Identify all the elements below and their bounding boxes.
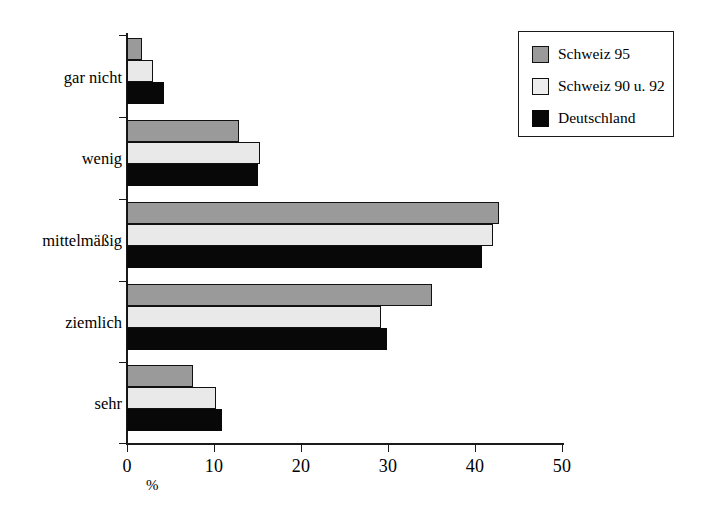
- bar-schweiz-90-92: [127, 142, 260, 164]
- bar-schweiz-95: [127, 284, 432, 306]
- bar-schweiz-95: [127, 365, 193, 387]
- y-axis-tick: [119, 199, 127, 200]
- x-axis-tick: [214, 443, 215, 452]
- bar-schweiz-90-92: [127, 306, 381, 328]
- swatch-schweiz-90-92-icon: [532, 78, 549, 95]
- legend-label: Deutschland: [558, 110, 635, 126]
- bar-schweiz-90-92: [127, 60, 153, 82]
- y-axis-label-mittelmaessig: mittelmäßig: [6, 233, 122, 250]
- bar-deutschland: [127, 328, 387, 350]
- bar-deutschland: [127, 164, 258, 186]
- legend-label: Schweiz 95: [558, 46, 630, 62]
- x-axis-tick-label: 40: [455, 456, 495, 477]
- x-axis-line: [126, 443, 564, 445]
- legend-item-schweiz-90-92: Schweiz 90 u. 92: [532, 76, 665, 96]
- y-axis-tick: [119, 117, 127, 118]
- x-axis-tick-label: 20: [281, 456, 321, 477]
- legend-item-deutschland: Deutschland: [532, 108, 635, 128]
- y-axis-label-ziemlich: ziemlich: [6, 315, 122, 332]
- x-axis-tick: [475, 443, 476, 452]
- y-axis-tick: [119, 281, 127, 282]
- bar-schweiz-90-92: [127, 224, 493, 246]
- y-axis-tick: [119, 362, 127, 363]
- bar-deutschland: [127, 246, 482, 268]
- x-axis-title: %: [146, 477, 159, 494]
- legend: Schweiz 95 Schweiz 90 u. 92 Deutschland: [518, 31, 674, 137]
- swatch-deutschland-icon: [532, 110, 549, 127]
- y-axis-label-gar-nicht: gar nicht: [6, 70, 122, 87]
- x-axis-tick: [127, 443, 128, 452]
- bar-schweiz-90-92: [127, 387, 216, 409]
- x-axis-tick-label: 50: [542, 456, 582, 477]
- x-axis-tick: [388, 443, 389, 452]
- y-axis-label-wenig: wenig: [6, 151, 122, 168]
- x-axis-tick-label: 30: [368, 456, 408, 477]
- bar-schweiz-95: [127, 120, 239, 142]
- bar-deutschland: [127, 409, 222, 431]
- y-axis-tick: [119, 443, 127, 444]
- legend-label: Schweiz 90 u. 92: [558, 78, 665, 94]
- y-axis-labels: gar nicht wenig mittelmäßig ziemlich seh…: [0, 0, 122, 515]
- bar-chart: gar nicht wenig mittelmäßig ziemlich seh…: [0, 0, 708, 515]
- x-axis-tick: [562, 443, 563, 452]
- x-axis-tick-label: 10: [194, 456, 234, 477]
- x-axis-tick-label: 0: [107, 456, 147, 477]
- legend-item-schweiz-95: Schweiz 95: [532, 44, 630, 64]
- x-axis-tick: [301, 443, 302, 452]
- bar-deutschland: [127, 82, 164, 104]
- swatch-schweiz-95-icon: [532, 46, 549, 63]
- bar-schweiz-95: [127, 38, 142, 60]
- bar-schweiz-95: [127, 202, 499, 224]
- y-axis-label-sehr: sehr: [6, 396, 122, 413]
- y-axis-tick: [119, 35, 127, 36]
